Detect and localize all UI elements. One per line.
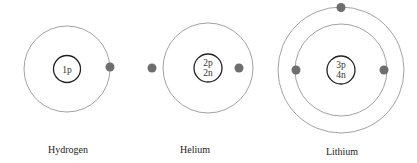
helium-nucleus-neutrons: 2n: [203, 68, 213, 78]
lithium-nucleus-protons: 3p: [336, 60, 346, 70]
helium-nucleus-protons: 2p: [203, 58, 213, 68]
electron-icon: [148, 64, 157, 73]
atom-diagram: 1p 2p 2n 3p 4n: [0, 0, 417, 163]
helium-atom: 2p 2n: [148, 23, 254, 113]
electron-icon: [235, 64, 244, 73]
electron-icon: [292, 66, 301, 75]
hydrogen-nucleus-label: 1p: [62, 65, 72, 75]
electron-icon: [337, 3, 346, 12]
electron-icon: [380, 66, 389, 75]
lithium-label: Lithium: [326, 146, 358, 157]
electron-icon: [106, 63, 115, 72]
helium-label: Helium: [180, 144, 210, 155]
lithium-atom: 3p 4n: [278, 3, 404, 133]
hydrogen-atom: 1p: [24, 26, 115, 112]
hydrogen-label: Hydrogen: [48, 144, 88, 155]
lithium-nucleus-neutrons: 4n: [336, 70, 346, 80]
